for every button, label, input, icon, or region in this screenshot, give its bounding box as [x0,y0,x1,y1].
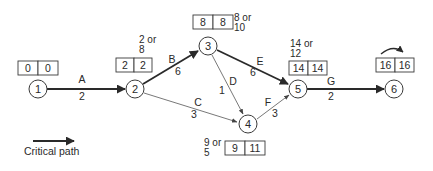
latest-time: 16 [399,59,411,71]
earliest-time: 16 [380,59,392,71]
activity-b-name: B [168,53,175,65]
activity-f-duration: 3 [272,107,278,119]
earliest-time: 14 [293,62,305,74]
node-2-label: 2 [132,83,138,95]
activity-g-name: G [327,75,335,87]
node-1-label: 1 [35,83,41,95]
activity-c-duration: 3 [191,108,197,120]
latest-time: 2 [140,59,146,71]
node-5-label: 5 [295,83,301,95]
activity-d-duration: 1 [219,84,225,96]
time-box-node-4: 9 11 [225,141,265,155]
node-5: 5 [289,80,307,98]
earliest-time: 0 [25,62,31,74]
note-node-3: 8 or 10 [234,12,252,33]
note-node-5: 14 or 12 [290,38,313,59]
activity-b-duration: 6 [175,65,181,77]
legend-label: Critical path [24,145,80,157]
edge-f: F 3 [257,95,289,119]
time-box-node-1: 0 0 [18,61,58,75]
time-box-node-5: 14 14 [289,61,327,75]
activity-a-name: A [78,73,85,85]
time-box-node-6: 16 16 [376,58,414,72]
edge-e: E 6 [217,50,288,84]
earliest-time: 8 [200,16,206,28]
note-line-2: 5 [204,147,210,158]
time-box-node-2: 2 2 [116,58,152,72]
earliest-time: 9 [232,142,238,154]
critical-path-network-diagram: A 2 B 6 C 3 D 1 E 6 F 3 G 2 1 2 [0,0,433,171]
activity-g-duration: 2 [328,90,334,102]
latest-time: 14 [312,62,324,74]
time-box-node-3: 8 8 [193,15,233,29]
legend: Critical path [24,141,80,157]
note-node-4: 9 or 5 [204,137,222,158]
edge-a: A 2 [47,73,125,102]
node-4-label: 4 [245,118,251,130]
activity-f-name: F [265,96,271,108]
latest-time: 8 [220,16,226,28]
note-line-2: 8 [139,44,145,55]
node-6: 6 [385,80,403,98]
earliest-time: 2 [122,59,128,71]
note-node-2: 2 or 8 [139,34,157,55]
activity-e-name: E [256,55,263,67]
note-line-2: 12 [290,48,302,59]
node-1: 1 [29,80,47,98]
node-3-label: 3 [205,40,211,52]
activity-d-name: D [229,75,237,87]
node-6-label: 6 [391,83,397,95]
edge-c: C 3 [144,93,237,122]
activity-e-duration: 6 [250,66,256,78]
activity-c-name: C [194,96,202,108]
edge-d: D 1 [212,55,243,114]
latest-time: 11 [250,142,261,154]
curved-arrow-icon [381,48,403,54]
node-2: 2 [126,80,144,98]
latest-time: 0 [45,62,51,74]
note-line-2: 10 [234,22,246,33]
node-4: 4 [239,115,257,133]
node-3: 3 [199,37,217,55]
edge-g: G 2 [307,75,384,102]
activity-a-duration: 2 [79,90,85,102]
